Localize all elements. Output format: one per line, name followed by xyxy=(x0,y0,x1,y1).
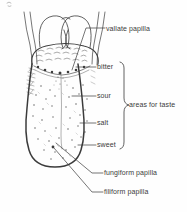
label-sour: sour xyxy=(97,92,111,99)
median-sulcus xyxy=(61,75,62,149)
median-stipple xyxy=(54,76,68,89)
filiform-papilla-tick xyxy=(38,92,78,157)
fungiform-papilla-dot xyxy=(32,84,87,159)
label-fungiform-papilla: fungiform papilla xyxy=(104,169,157,176)
vallate-papillae-row xyxy=(34,66,90,78)
label-salt: salt xyxy=(97,119,108,126)
areas-for-taste-brace xyxy=(120,62,129,149)
label-filiform-papilla: filiform papilla xyxy=(104,188,148,195)
lingual-tonsil-texture xyxy=(36,47,87,61)
label-sweet: sweet xyxy=(97,141,116,148)
tongue-diagram: vallate papilla bitter sour salt sweet a… xyxy=(0,0,187,212)
lateral-shading-right xyxy=(91,70,95,84)
label-vallate-papilla: vallate papilla xyxy=(106,25,150,32)
label-areas-for-taste: areas for taste xyxy=(129,101,175,108)
stray-mark-icon xyxy=(7,2,11,7)
label-bitter: bitter xyxy=(97,63,113,70)
